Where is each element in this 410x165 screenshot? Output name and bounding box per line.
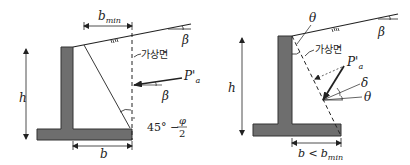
retaining-wall-left [37,47,132,140]
beta-slope-label-right: β [377,25,385,39]
left-diagram: β bmin 가상면 45° − φ 2 P'a β h b [19,9,200,161]
height-label-left: h [19,91,27,105]
imaginary-plane-label-left: 가상면 [141,49,168,60]
imaginary-plane-label-right: 가상면 [315,44,342,55]
base-width-label-left: b [100,147,108,161]
delta-label: δ [361,76,368,90]
failure-plane-left [84,45,130,128]
angle-label: 45° − [147,121,179,134]
phi-label: φ [179,115,186,126]
retaining-wall-diagrams: β bmin 가상면 45° − φ 2 P'a β h b [0,0,410,165]
beta-slope-label-left: β [181,33,189,47]
beta-force-label-left: β [161,89,169,103]
base-width-label-right: b <bmin [298,147,343,162]
force-label-left: P'a [183,69,200,85]
right-diagram: β θ 가상면 P'a δ θ h b <bmin [228,11,398,162]
soil-hatch-icon [332,28,339,32]
b-min-label: bmin [98,9,121,25]
force-arrow-left [134,78,182,85]
theta-top-label: θ [309,11,317,25]
two-label: 2 [179,128,185,139]
theta-force-label: θ [364,90,372,104]
force-label-right: P'a [346,55,363,71]
height-label-right: h [228,81,236,95]
